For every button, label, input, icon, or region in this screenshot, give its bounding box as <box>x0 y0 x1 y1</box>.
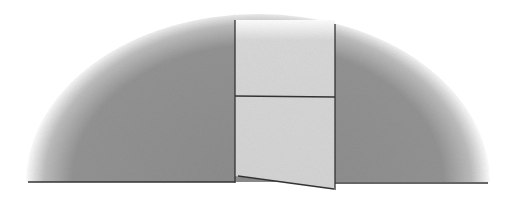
dome-door-diagram <box>0 0 515 203</box>
door-panel <box>235 20 335 189</box>
diagram-canvas <box>0 0 515 203</box>
